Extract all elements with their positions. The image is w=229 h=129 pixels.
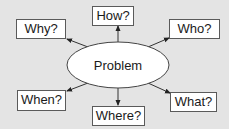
node-where: Where? — [92, 106, 145, 126]
node-where-label: Where? — [96, 108, 142, 123]
node-what: What? — [170, 92, 217, 112]
node-who-label: Who? — [178, 21, 212, 36]
center-node-label: Problem — [67, 42, 169, 88]
node-who: Who? — [169, 19, 220, 39]
node-when-label: When? — [21, 92, 62, 107]
node-why-label: Why? — [24, 21, 57, 36]
node-when: When? — [17, 90, 66, 111]
node-how: How? — [92, 6, 134, 26]
node-how-label: How? — [96, 8, 129, 23]
node-what-label: What? — [175, 94, 213, 109]
node-why: Why? — [16, 19, 66, 39]
